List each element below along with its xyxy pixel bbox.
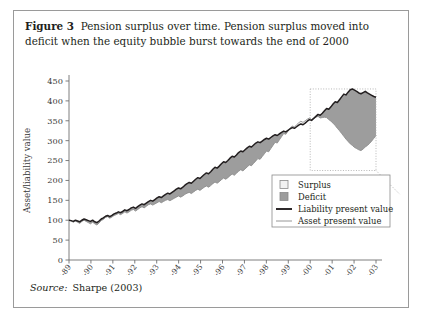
- pension-surplus-chart: 050100150200250300350400450Asset/liabili…: [14, 57, 410, 275]
- y-tick-label: 150: [47, 195, 63, 205]
- x-tick-label: Dec-91: [93, 263, 117, 275]
- y-tick-label: 450: [47, 76, 63, 86]
- y-tick-label: 400: [47, 96, 63, 106]
- chart-plot-area: 050100150200250300350400450Asset/liabili…: [14, 57, 410, 275]
- x-tick-label: Dec-97: [225, 263, 249, 275]
- x-tick-label: Dec-02: [334, 263, 358, 275]
- y-tick-label: 50: [53, 235, 63, 245]
- x-tick-label: Dec-01: [312, 263, 336, 275]
- legend-label-liability-present-value: Liability present value: [298, 204, 393, 214]
- y-tick-label: 0: [58, 255, 63, 265]
- y-tick-label: 350: [47, 116, 63, 126]
- source-value: Sharpe (2003): [67, 282, 142, 293]
- x-tick-label: Dec-93: [137, 263, 161, 275]
- legend-label-asset-present-value: Asset present value: [297, 216, 381, 226]
- deficit-band: [314, 89, 376, 151]
- x-tick-label: Dec-90: [71, 263, 95, 275]
- figure-label: Figure 3: [25, 20, 74, 32]
- legend-label-deficit: Deficit: [298, 192, 327, 202]
- legend-swatch-deficit: [280, 193, 288, 201]
- y-axis-label: Asset/liability value: [22, 128, 32, 214]
- y-tick-label: 100: [47, 215, 63, 225]
- x-tick-label: Dec-96: [203, 263, 227, 275]
- x-tick-label: Dec-92: [115, 263, 139, 275]
- y-tick-label: 200: [47, 175, 63, 185]
- x-tick-label: Dec-98: [247, 263, 271, 275]
- y-tick-label: 250: [47, 155, 63, 165]
- figure-caption: Figure 3 Pension surplus over time. Pens…: [25, 19, 395, 49]
- legend-label-surplus: Surplus: [298, 180, 331, 190]
- x-tick-label: Dec-00: [291, 263, 315, 275]
- figure-caption-text: Pension surplus over time. Pension surpl…: [25, 20, 369, 47]
- figure-caption-body: Pension surplus over time. Pension surpl…: [25, 20, 369, 47]
- chart-legend: SurplusDeficitLiability present valueAss…: [272, 175, 393, 227]
- figure-frame: Figure 3 Pension surplus over time. Pens…: [13, 10, 409, 308]
- legend-swatch-surplus: [280, 181, 288, 189]
- source-line: Source:Sharpe (2003): [30, 282, 142, 293]
- x-tick-label: Dec-99: [269, 263, 293, 275]
- y-tick-label: 300: [47, 136, 63, 146]
- x-tick-label: Dec-95: [181, 263, 205, 275]
- x-tick-label: Dec-03: [356, 263, 380, 275]
- x-tick-label: Dec-94: [159, 263, 183, 275]
- source-label: Source:: [30, 282, 67, 293]
